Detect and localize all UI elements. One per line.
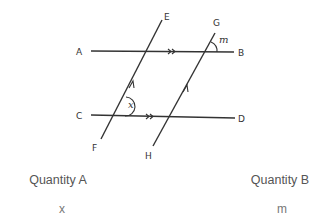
angle-label-x: x <box>128 99 134 110</box>
point-label-a: A <box>76 47 83 57</box>
point-label-d: D <box>238 114 245 124</box>
line-ef <box>101 20 162 139</box>
angle-m-arc <box>211 42 217 52</box>
quantity-a-label: Quantity A <box>0 173 118 187</box>
point-label-h: H <box>145 151 152 160</box>
point-label-e: E <box>164 12 170 22</box>
point-label-c: C <box>76 111 82 121</box>
line-ab <box>91 51 234 52</box>
quantity-b-label: Quantity B <box>220 173 329 187</box>
point-label-f: F <box>92 143 97 153</box>
quantity-a-value: x <box>2 202 122 216</box>
point-label-g: G <box>213 18 220 28</box>
quantity-b-value: m <box>222 202 329 216</box>
angle-label-m: m <box>219 34 228 45</box>
point-label-b: B <box>238 48 244 58</box>
parallel-lines-diagram: A B C D E F G H x m <box>0 0 329 160</box>
